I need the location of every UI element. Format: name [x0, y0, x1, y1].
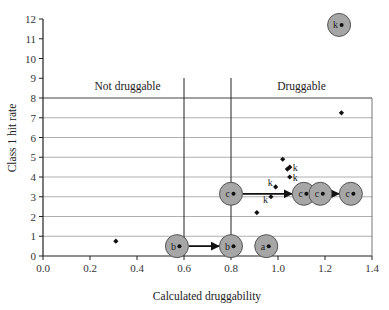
y-tick-label: 7 [31, 112, 37, 124]
data-point [113, 239, 118, 244]
x-axis-ticks: 0.00.20.40.60.81.01.21.4 [36, 256, 379, 274]
gridlines [43, 98, 372, 256]
region-label: Druggable [277, 80, 326, 93]
svg-text:k: k [268, 177, 273, 188]
highlight-bubble: c [220, 182, 243, 205]
y-tick-label: 9 [31, 72, 37, 84]
highlighted-bubbles: bbacccck [165, 13, 362, 257]
svg-text:b: b [171, 241, 176, 252]
x-tick-label: 0.2 [83, 262, 97, 274]
data-point [339, 110, 344, 115]
data-point: k [268, 177, 279, 190]
threshold-lines [184, 78, 231, 256]
svg-text:a: a [261, 241, 266, 252]
svg-text:k: k [263, 194, 268, 205]
svg-text:c: c [345, 188, 350, 199]
region-label: Not druggable [95, 80, 161, 93]
y-tick-label: 3 [31, 191, 37, 203]
highlight-bubble: c [339, 182, 362, 205]
highlight-bubble: b [220, 235, 243, 258]
y-tick-label: 11 [25, 33, 36, 45]
y-tick-label: 6 [31, 132, 37, 144]
y-tick-label: 10 [25, 53, 37, 65]
x-tick-label: 0.8 [224, 262, 238, 274]
x-tick-label: 0.4 [130, 262, 144, 274]
highlight-bubble: a [255, 235, 278, 258]
data-point: k [263, 194, 274, 205]
x-axis-label: Calculated druggability [153, 290, 262, 303]
x-tick-label: 1.0 [271, 262, 285, 274]
highlight-bubble: c [309, 182, 332, 205]
scatter-chart: 0.00.20.40.60.81.01.21.4 012345678910111… [0, 0, 389, 310]
x-tick-label: 0.0 [36, 262, 50, 274]
svg-text:k: k [333, 19, 338, 30]
y-tick-label: 1 [31, 230, 37, 242]
y-tick-label: 8 [31, 92, 37, 104]
y-axis-label: Class 1 hit rate [6, 104, 18, 173]
data-point: k [287, 172, 298, 183]
y-tick-label: 12 [25, 13, 36, 25]
x-tick-label: 1.4 [365, 262, 379, 274]
svg-text:c: c [226, 188, 231, 199]
y-tick-label: 5 [31, 151, 37, 163]
data-point [254, 210, 259, 215]
y-tick-label: 2 [31, 211, 37, 223]
svg-text:c: c [315, 188, 320, 199]
region-labels: Not druggableDruggable [95, 80, 326, 93]
x-tick-label: 1.2 [318, 262, 332, 274]
highlight-bubble: k [328, 13, 351, 36]
y-tick-label: 4 [31, 171, 37, 183]
svg-text:c: c [298, 188, 303, 199]
y-tick-label: 0 [31, 250, 37, 262]
svg-text:k: k [293, 172, 298, 183]
svg-text:b: b [225, 241, 230, 252]
highlight-bubble: b [165, 235, 188, 258]
y-axis-ticks: 0123456789101112 [25, 13, 43, 262]
x-tick-label: 0.6 [177, 262, 191, 274]
